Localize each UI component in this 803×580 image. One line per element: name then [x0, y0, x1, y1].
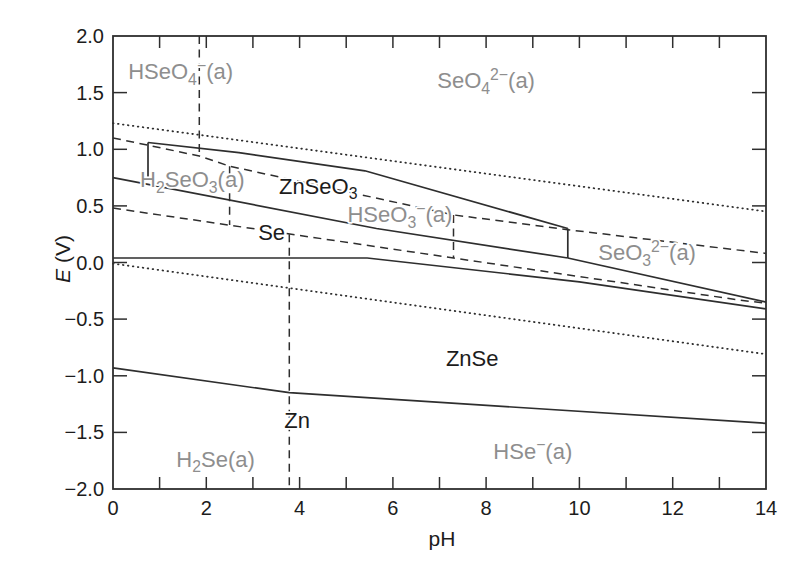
se-region-label: Se — [258, 220, 285, 245]
x-tick-label-12: 12 — [662, 497, 684, 519]
hse-region-label: HSe−(a) — [493, 436, 572, 463]
x-axis-label: pH — [429, 527, 456, 550]
y-tick-label-7: −1.5 — [65, 421, 104, 443]
pourbaix-diagram-figure: 024681012142.01.51.00.50.0−0.5−1.0−1.5−2… — [0, 0, 803, 580]
znseo3-region-label: ZnSeO3 — [279, 174, 358, 203]
y-tick-label-3: 0.5 — [76, 195, 104, 217]
figure-background — [0, 0, 803, 580]
x-tick-label-0: 0 — [107, 497, 118, 519]
x-tick-label-6: 6 — [387, 497, 398, 519]
y-tick-label-2: 1.0 — [76, 138, 104, 160]
zn-region-label: Zn — [284, 408, 310, 433]
znse-region-label: ZnSe — [446, 346, 499, 371]
hseo3-region-label: HSeO3−(a) — [347, 200, 452, 231]
h2seo3-region-label: H2SeO3(a) — [140, 167, 244, 196]
hseo4-region-label: HSeO4−(a) — [128, 57, 233, 88]
h2se-region-label: H2Se(a) — [176, 447, 254, 476]
y-tick-label-0: 2.0 — [76, 25, 104, 47]
y-tick-label-1: 1.5 — [76, 82, 104, 104]
x-tick-label-14: 14 — [755, 497, 777, 519]
y-axis-label: E (V) — [51, 235, 74, 283]
x-tick-label-8: 8 — [481, 497, 492, 519]
y-tick-label-6: −1.0 — [65, 365, 104, 387]
pourbaix-plot: 024681012142.01.51.00.50.0−0.5−1.0−1.5−2… — [0, 0, 803, 580]
y-tick-label-4: 0.0 — [76, 252, 104, 274]
x-tick-label-2: 2 — [201, 497, 212, 519]
y-tick-label-8: −2.0 — [65, 478, 104, 500]
x-tick-label-4: 4 — [294, 497, 305, 519]
x-tick-label-10: 10 — [568, 497, 590, 519]
y-tick-label-5: −0.5 — [65, 308, 104, 330]
